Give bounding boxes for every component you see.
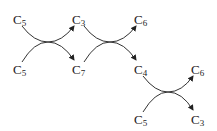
reaction-arrows: [0, 0, 217, 131]
node-c4: C4: [134, 63, 147, 78]
node-c3: C3: [72, 13, 85, 28]
node-c7: C7: [72, 63, 85, 78]
node-c6-right: C6: [191, 63, 204, 78]
node-c6-top: C6: [134, 13, 147, 28]
node-c5-lower: C5: [134, 113, 147, 128]
diagram-canvas: C5 C5 C3 C7 C6 C4 C6 C5 C3: [0, 0, 217, 131]
node-c3-lower: C3: [191, 113, 204, 128]
node-c5-top: C5: [13, 13, 26, 28]
node-c5-bottom: C5: [13, 63, 26, 78]
